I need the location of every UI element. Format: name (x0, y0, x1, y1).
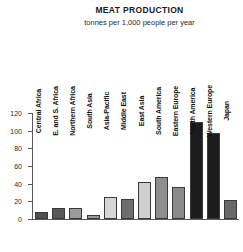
bar-category-label: East Asia (138, 96, 145, 126)
plot-area: 020406080100120 Central AfricaE. and S. … (33, 113, 239, 219)
bar: South America (155, 177, 168, 219)
chart-title: MEAT PRODUCTION (0, 5, 243, 15)
bar-slot: Central Africa (35, 113, 48, 219)
chart-header: MEAT PRODUCTION tonnes per 1,000 people … (0, 5, 243, 27)
bar-slot: Middle East (121, 113, 134, 219)
bar-slot: North America (190, 113, 203, 219)
y-tick-label: 0 (18, 216, 22, 223)
bar-slot: Japan (224, 113, 237, 219)
y-tick-label: 100 (10, 127, 22, 134)
bar: Japan (224, 200, 237, 219)
bar-category-label: Eastern Europe (172, 86, 179, 136)
bar-slot: East Asia (138, 113, 151, 219)
bar-slot: Western Europe (207, 113, 220, 219)
bar-category-label: North America (189, 88, 196, 135)
bar: North America (190, 122, 203, 219)
bar: Western Europe (207, 133, 220, 219)
bar: Eastern Europe (172, 187, 185, 219)
chart-subtitle: tonnes per 1,000 people per year (0, 18, 243, 27)
bar-slot: South America (155, 113, 168, 219)
bar: South Asia (87, 215, 100, 219)
y-tick-mark: 0 (28, 219, 33, 220)
bar-category-label: Central Africa (35, 89, 42, 133)
bar: Central Africa (35, 212, 48, 219)
bar: Asia-Pacific (104, 197, 117, 219)
y-tick-label: 80 (14, 145, 22, 152)
bar-category-label: South Asia (86, 93, 93, 128)
bar: E. and S. Africa (52, 208, 65, 219)
bar-category-label: Northern Africa (69, 86, 76, 136)
bar-category-label: Asia-Pacific (103, 92, 110, 131)
bar-series: Central AfricaE. and S. AfricaNorthern A… (33, 113, 239, 219)
bar-slot: Asia-Pacific (104, 113, 117, 219)
bar: Middle East (121, 199, 134, 219)
y-tick-label: 20 (14, 198, 22, 205)
meat-production-chart: MEAT PRODUCTION tonnes per 1,000 people … (0, 0, 243, 252)
bar: East Asia (138, 182, 151, 219)
bar: Northern Africa (69, 208, 82, 219)
y-tick-label: 60 (14, 163, 22, 170)
bar-slot: Eastern Europe (172, 113, 185, 219)
bar-category-label: Japan (223, 101, 230, 121)
bar-category-label: E. and S. Africa (52, 86, 59, 136)
bar-category-label: Western Europe (206, 85, 213, 137)
bar-slot: Northern Africa (69, 113, 82, 219)
bar-category-label: Middle East (120, 92, 127, 130)
y-tick-label: 40 (14, 180, 22, 187)
x-axis-line (32, 219, 239, 220)
bar-category-label: South America (155, 87, 162, 135)
bar-slot: E. and S. Africa (52, 113, 65, 219)
y-tick-label: 120 (10, 110, 22, 117)
bar-slot: South Asia (87, 113, 100, 219)
